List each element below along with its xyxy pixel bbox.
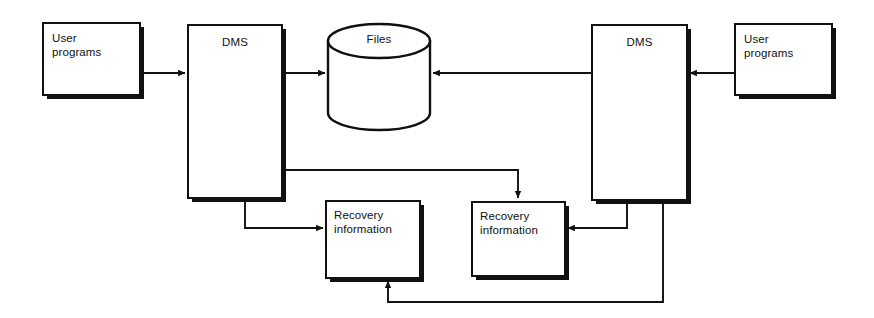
- node-recovery-information-right[interactable]: [472, 202, 565, 276]
- diagram-canvas: User programs DMS Files DMS User program…: [0, 0, 874, 318]
- node-user-programs-right[interactable]: [735, 24, 832, 95]
- connector-dms-right-to-recovery-information-right: [568, 200, 627, 228]
- node-shadows: [47, 27, 836, 282]
- node-dms-left[interactable]: [188, 25, 282, 198]
- node-recovery-information-left[interactable]: [326, 201, 420, 278]
- node-outlines: [43, 23, 832, 278]
- connector-dms-left-to-recovery-information-right: [282, 170, 518, 198]
- node-files-cylinder[interactable]: [328, 24, 430, 130]
- diagram-graphics: [0, 0, 874, 318]
- files-cylinder-top: [328, 24, 430, 58]
- node-dms-right[interactable]: [592, 25, 687, 200]
- connector-dms-left-to-recovery-information-left: [245, 198, 323, 228]
- node-user-programs-left[interactable]: [43, 23, 140, 95]
